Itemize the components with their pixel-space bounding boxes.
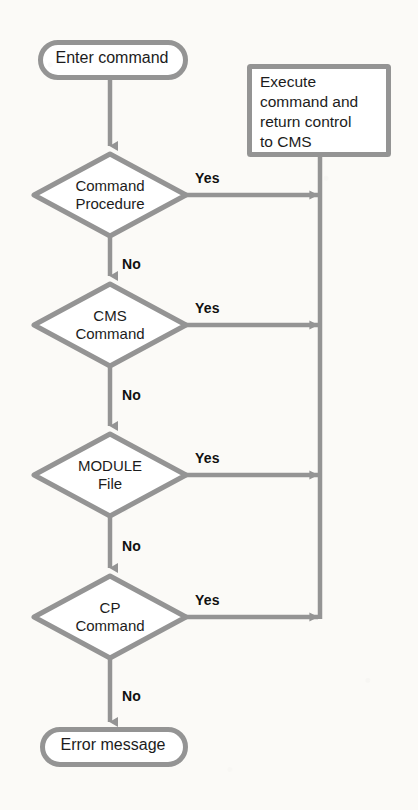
node-decision-module-file-shape	[34, 434, 186, 516]
flowchart-canvas: Enter command Execute command and return…	[0, 0, 418, 810]
node-start-terminal-shape	[41, 43, 186, 78]
node-decision-command-procedure-shape	[34, 154, 186, 236]
node-end-terminal-shape	[43, 730, 186, 765]
node-decision-cp-command-shape	[34, 576, 186, 658]
flowchart-graphics	[0, 0, 418, 810]
node-process-execute-shape	[250, 67, 389, 155]
node-decision-cms-command-shape	[34, 284, 186, 366]
